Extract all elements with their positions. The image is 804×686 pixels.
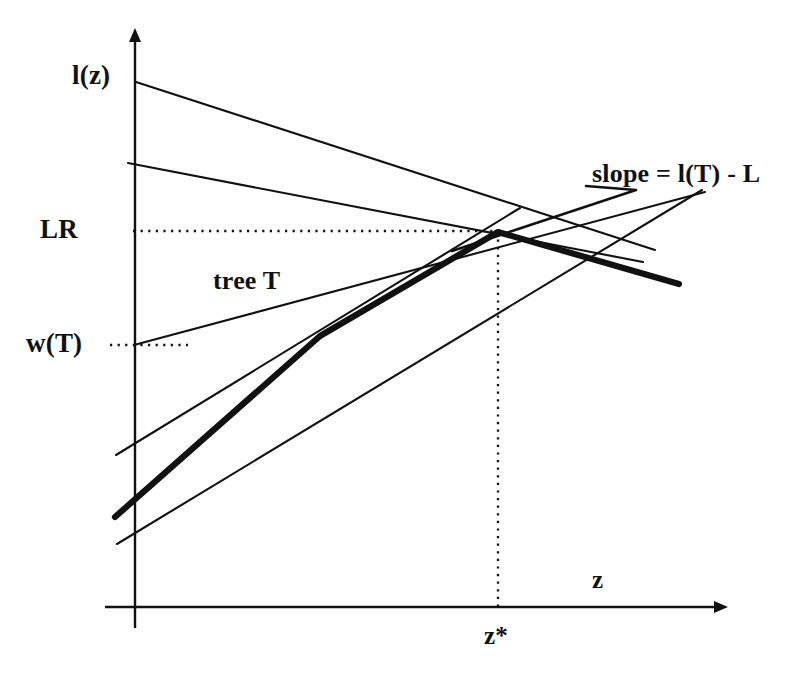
label-z-star: z*: [484, 623, 508, 648]
label-w-of-t: w(T): [26, 330, 82, 357]
l-of-z-line: [136, 82, 655, 250]
y-axis-arrowhead: [129, 28, 141, 42]
tangent-at-zstar-line: [117, 190, 702, 544]
label-l-of-z: l(z): [72, 62, 110, 89]
label-x-axis-z: z: [592, 567, 603, 592]
diagram-canvas: l(z) LR w(T) tree T slope = l(T) - L z z…: [0, 0, 804, 686]
guide-lines-group: [110, 231, 498, 607]
label-tree-t: tree T: [213, 268, 280, 294]
x-axis-arrowhead: [714, 601, 728, 613]
construction-lines-group: [116, 82, 705, 544]
label-lr: LR: [40, 216, 78, 243]
label-slope-equation: slope = l(T) - L: [592, 161, 760, 187]
diagram-svg: [0, 0, 804, 686]
supporting-line-low: [116, 208, 520, 455]
